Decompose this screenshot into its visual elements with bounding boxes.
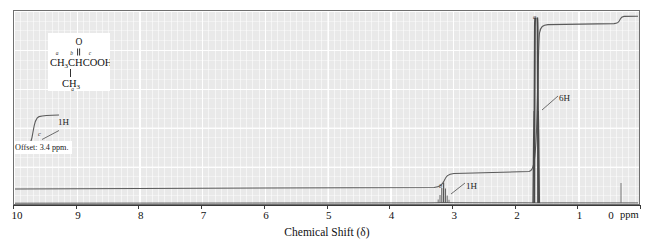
spectrum-plot-area: O a b c CH3CHCOOH CH3 a — [13, 10, 640, 205]
x-axis-title: Chemical Shift (δ) — [0, 226, 654, 238]
structure-label-b: b — [70, 50, 73, 56]
nmr-figure: O a b c CH3CHCOOH CH3 a — [0, 0, 654, 247]
pointer-1h-b — [444, 179, 474, 201]
spectrum-baseline-trace — [15, 203, 638, 204]
x-tick-label-10: 10 — [12, 209, 23, 221]
x-tick-label-9: 9 — [75, 209, 81, 221]
x-tick-label-5: 5 — [326, 209, 332, 221]
structure-main-rest: CHCOOH — [68, 57, 110, 68]
svg-text:CH3CHCOOH: CH3CHCOOH — [50, 57, 110, 70]
structure-label-c: c — [89, 50, 92, 56]
structure-label-a: a — [56, 50, 59, 56]
peak-label-b: b — [439, 182, 442, 189]
structure-drawing: O a b c CH3CHCOOH CH3 a — [48, 33, 110, 91]
x-tick-label-8: 8 — [138, 209, 144, 221]
integral-label-1h-c: 1H — [58, 117, 69, 127]
x-tick-label-7: 7 — [201, 209, 207, 221]
x-tick-label-0: 0 — [608, 209, 614, 221]
x-tick-0 — [640, 205, 641, 209]
x-tick-label-6: 6 — [263, 209, 269, 221]
x-tick-label-1: 1 — [577, 209, 583, 221]
offset-note: Offset: 3.4 ppm. — [14, 141, 72, 154]
structure-label-a-branch: a — [71, 86, 74, 91]
structure-branch-ch: CH — [62, 78, 77, 89]
peak-label-a: a — [533, 13, 536, 20]
peak-label-c: c — [38, 130, 41, 137]
structure-carbonyl-oxygen: O — [76, 37, 83, 47]
x-tick-label-4: 4 — [389, 209, 395, 221]
structure-branch-sub3: 3 — [77, 83, 81, 91]
structure-inset: O a b c CH3CHCOOH CH3 a — [48, 33, 110, 91]
x-tick-label-2: 2 — [514, 209, 520, 221]
structure-main-ch: CH — [50, 57, 65, 68]
pointer-6h — [538, 93, 564, 115]
x-tick-label-3: 3 — [451, 209, 457, 221]
x-axis-unit-label: ppm — [620, 209, 639, 220]
